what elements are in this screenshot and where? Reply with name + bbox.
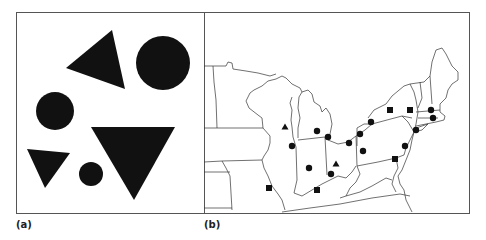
triangle-shape bbox=[66, 30, 125, 89]
circle-shape bbox=[79, 162, 103, 186]
circle-marker-icon bbox=[360, 148, 366, 154]
circle-marker-icon bbox=[428, 107, 434, 113]
triangle-shape bbox=[91, 127, 175, 200]
circle-marker-icon bbox=[402, 143, 408, 149]
square-marker-icon bbox=[407, 107, 413, 113]
circle-marker-icon bbox=[325, 134, 331, 140]
circle-shape bbox=[136, 36, 190, 90]
square-marker-icon bbox=[392, 156, 398, 162]
circle-marker-icon bbox=[357, 131, 363, 137]
panel-b-markers bbox=[266, 107, 436, 193]
circle-marker-icon bbox=[306, 165, 312, 171]
panel-b-label: (b) bbox=[204, 219, 220, 230]
panel-a-label: (a) bbox=[16, 219, 32, 230]
us-map bbox=[204, 48, 458, 212]
circle-marker-icon bbox=[314, 128, 320, 134]
circle-marker-icon bbox=[289, 143, 295, 149]
figure: (a) (b) bbox=[0, 0, 486, 240]
circle-marker-icon bbox=[368, 119, 374, 125]
triangle-shape bbox=[27, 149, 70, 188]
circle-marker-icon bbox=[413, 127, 419, 133]
panel-a-shapes bbox=[27, 30, 190, 200]
triangle-marker-icon bbox=[282, 124, 289, 130]
square-marker-icon bbox=[266, 185, 272, 191]
square-marker-icon bbox=[314, 187, 320, 193]
circle-marker-icon bbox=[328, 171, 334, 177]
panel-b-frame bbox=[205, 13, 470, 214]
square-marker-icon bbox=[387, 107, 393, 113]
triangle-marker-icon bbox=[333, 161, 340, 167]
circle-marker-icon bbox=[430, 115, 436, 121]
circle-shape bbox=[36, 92, 74, 130]
circle-marker-icon bbox=[346, 140, 352, 146]
